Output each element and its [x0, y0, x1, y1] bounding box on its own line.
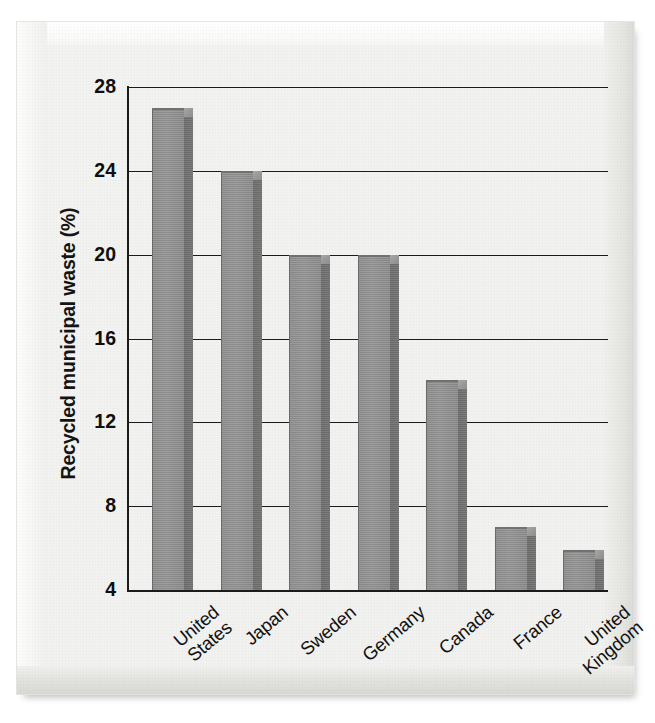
y-tick-label-8: 8 [82, 496, 116, 516]
y-tick-label-20: 20 [82, 245, 116, 265]
bar-side-3d [184, 117, 193, 590]
bar-face [221, 171, 253, 590]
bar-top-3d [321, 255, 330, 264]
bar-face [152, 108, 184, 590]
x-label-3: Sweden [224, 602, 359, 720]
y-axis-title: Recycled municipal waste (%) [57, 154, 80, 534]
bar-top-edge [563, 550, 595, 552]
y-tick-label-4: 4 [82, 580, 116, 600]
gridline-4 [127, 590, 608, 592]
bar-5 [426, 380, 458, 590]
bar-top-edge [152, 108, 184, 110]
x-label-7: United Kingdom [498, 602, 646, 723]
bar-4 [358, 255, 390, 590]
bar-top-3d [527, 527, 536, 536]
y-tick-label-28: 28 [82, 77, 116, 97]
bar-side-3d [595, 559, 604, 590]
bar-7 [563, 550, 595, 590]
bar-face [563, 550, 595, 590]
x-label-5: Canada [361, 602, 496, 720]
bar-side-3d [527, 536, 536, 590]
bar-6 [495, 527, 527, 590]
bar-face [358, 255, 390, 590]
bar-2 [221, 171, 253, 590]
bar-face [289, 255, 321, 590]
bar-top-edge [495, 527, 527, 529]
bar-side-3d [321, 264, 330, 590]
bar-top-3d [184, 108, 193, 117]
bar-top-edge [426, 380, 458, 382]
bar-chart-figure: Recycled municipal waste (%) 48121620242… [0, 0, 655, 723]
gridline-28 [127, 87, 608, 88]
scanned-chart-page: Recycled municipal waste (%) 48121620242… [0, 0, 655, 723]
bar-side-3d [458, 389, 467, 590]
y-tick-label-24: 24 [82, 161, 116, 181]
bar-top-edge [289, 255, 321, 257]
bar-face [426, 380, 458, 590]
y-tick-label-12: 12 [82, 412, 116, 432]
bar-top-3d [595, 550, 604, 559]
plot-area [127, 87, 608, 590]
bar-top-3d [390, 255, 399, 264]
bar-top-edge [358, 255, 390, 257]
bar-1 [152, 108, 184, 590]
bar-top-3d [253, 171, 262, 180]
bar-top-edge [221, 171, 253, 173]
bar-side-3d [390, 264, 399, 590]
bar-face [495, 527, 527, 590]
bar-side-3d [253, 180, 262, 590]
y-tick-label-16: 16 [82, 329, 116, 349]
bar-3 [289, 255, 321, 590]
bar-top-3d [458, 380, 467, 389]
x-label-4: Germany [293, 602, 428, 720]
gridline-24 [127, 171, 608, 172]
